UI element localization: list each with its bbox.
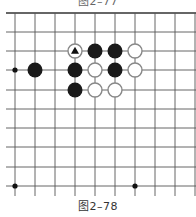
board-grid bbox=[6, 13, 196, 196]
white-stone bbox=[68, 44, 82, 58]
black-stone bbox=[68, 63, 83, 78]
black-stone bbox=[108, 44, 123, 59]
white-stone bbox=[128, 44, 142, 58]
black-stone bbox=[68, 83, 83, 98]
go-diagram: 图2–77 图2–78 bbox=[0, 0, 196, 217]
white-stone bbox=[88, 63, 102, 77]
stones bbox=[28, 44, 143, 98]
star-point-icon bbox=[12, 183, 17, 188]
black-stone bbox=[88, 44, 103, 59]
white-stone bbox=[128, 63, 142, 77]
black-stone bbox=[108, 63, 123, 78]
go-board bbox=[0, 0, 196, 217]
white-stone bbox=[108, 83, 122, 97]
figure-caption: 图2–78 bbox=[0, 197, 196, 213]
white-stone bbox=[88, 83, 102, 97]
star-point-icon bbox=[12, 67, 17, 72]
black-stone bbox=[28, 63, 43, 78]
star-point-icon bbox=[132, 183, 137, 188]
